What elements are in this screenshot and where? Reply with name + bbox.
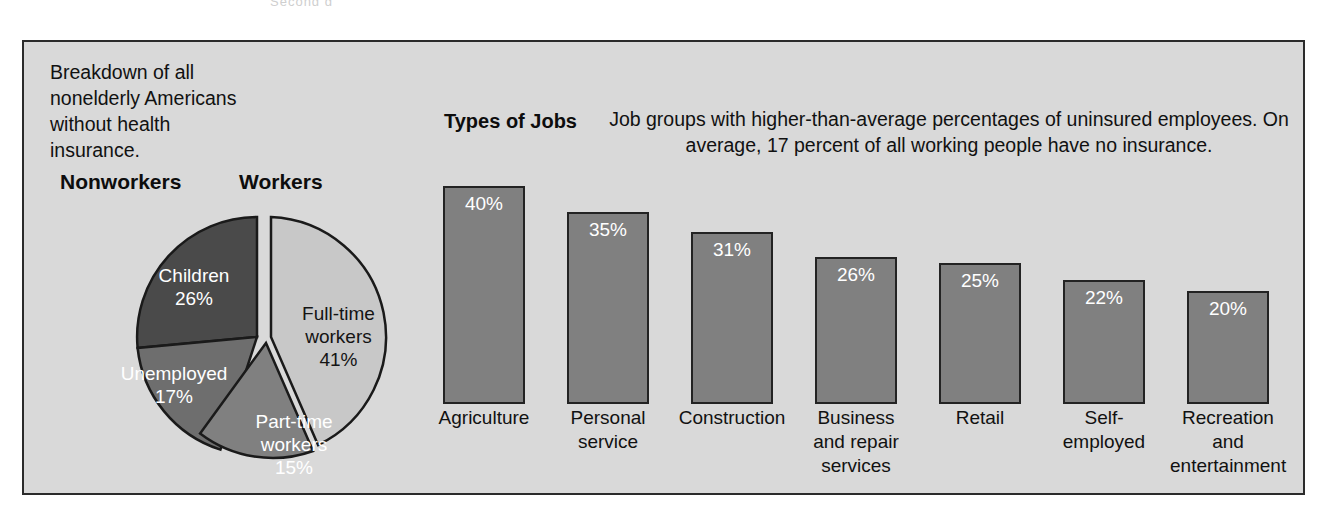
- pie-group-label-workers: Workers: [239, 170, 323, 194]
- bar-rect: 31%: [691, 232, 773, 404]
- bar-group: 22% Self- employed: [1054, 182, 1154, 482]
- bar-chart-heading: Types of Jobs: [444, 110, 577, 133]
- bar-rect: 40%: [443, 186, 525, 404]
- bar-value-label: 31%: [693, 239, 771, 261]
- bar-chart: 40% Agriculture 35% Personal service 31%…: [434, 182, 1294, 482]
- bar-category-label: Construction: [674, 406, 790, 482]
- pie-group-label-nonworkers: Nonworkers: [60, 170, 181, 194]
- pie-chart: Children 26% Unemployed 17% Full-time wo…: [54, 192, 454, 482]
- bar-value-label: 40%: [445, 193, 523, 215]
- bar-group: 35% Personal service: [558, 182, 658, 482]
- bar-group: 25% Retail: [930, 182, 1030, 482]
- bar-category-label: Business and repair services: [798, 406, 914, 482]
- bar-rect: 22%: [1063, 280, 1145, 404]
- bar-rect: 35%: [567, 212, 649, 404]
- pie-slice-children: [137, 217, 257, 348]
- bar-group: 31% Construction: [682, 182, 782, 482]
- pie-chart-svg: [54, 192, 454, 482]
- bar-category-label: Retail: [922, 406, 1038, 482]
- bar-rect: 26%: [815, 257, 897, 404]
- intro-caption: Breakdown of all nonelderly Americans wi…: [50, 59, 300, 163]
- figure-panel: Breakdown of all nonelderly Americans wi…: [22, 40, 1305, 495]
- bar-value-label: 20%: [1189, 298, 1267, 320]
- bar-category-label: Recreation and entertainment: [1170, 406, 1286, 482]
- bar-rect: 20%: [1187, 291, 1269, 404]
- bar-category-label: Personal service: [550, 406, 666, 482]
- bar-value-label: 22%: [1065, 287, 1143, 309]
- infographic-stage: Second g Breakdown of all nonelderly Ame…: [0, 0, 1321, 525]
- bar-value-label: 25%: [941, 270, 1019, 292]
- scan-artifact-text: Second g: [270, 0, 390, 6]
- bar-category-label: Self- employed: [1046, 406, 1162, 482]
- bar-value-label: 35%: [569, 219, 647, 241]
- bar-value-label: 26%: [817, 264, 895, 286]
- bar-group: 20% Recreation and entertainment: [1178, 182, 1278, 482]
- bar-group: 26% Business and repair services: [806, 182, 906, 482]
- bar-chart-description: Job groups with higher-than-average perc…: [604, 106, 1294, 158]
- bar-category-label: Agriculture: [426, 406, 542, 482]
- bar-group: 40% Agriculture: [434, 182, 534, 482]
- bar-rect: 25%: [939, 263, 1021, 404]
